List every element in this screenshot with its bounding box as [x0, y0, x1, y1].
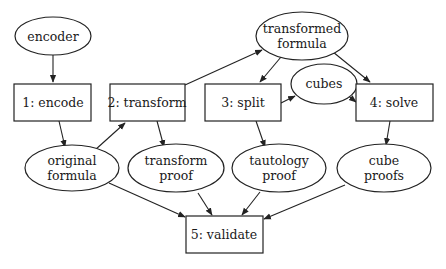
- edge-transform-proof-to-validate: [198, 193, 212, 215]
- edge-split-to-cubes: [281, 96, 295, 103]
- edge-solve-to-cube-proofs: [386, 121, 390, 145]
- edge-split-to-tautology-proof: [256, 121, 265, 147]
- node-validate[interactable]: 5: validate: [186, 216, 263, 253]
- edge-encode-to-original-formula: [59, 121, 65, 147]
- edge-transformed-formula-to-split: [260, 57, 281, 82]
- edge-transform-to-transformed-formula: [185, 50, 262, 85]
- node-label-line-1: transform: [145, 153, 208, 168]
- node-label-line-2: proof: [159, 168, 194, 183]
- node-label-line-1: tautology: [249, 153, 310, 168]
- node-label-line-1: original: [48, 153, 97, 168]
- node-solve[interactable]: 4: solve: [356, 84, 433, 121]
- node-tautology-proof[interactable]: tautology proof: [232, 144, 326, 192]
- node-label: 2: transform: [107, 95, 186, 110]
- node-cube-proofs[interactable]: cube proofs: [337, 144, 431, 192]
- node-cubes[interactable]: cubes: [291, 64, 357, 104]
- node-split[interactable]: 3: split: [205, 84, 281, 121]
- node-label-line-1: transformed: [263, 21, 341, 36]
- node-transform[interactable]: 2: transform: [107, 84, 186, 121]
- node-label: 4: solve: [370, 95, 419, 110]
- node-label: cubes: [306, 76, 343, 91]
- node-label: 5: validate: [191, 227, 258, 242]
- node-label-line-2: proofs: [364, 168, 404, 183]
- node-transformed-formula[interactable]: transformed formula: [256, 12, 348, 60]
- edge-original-formula-to-transform: [95, 123, 125, 150]
- node-encoder[interactable]: encoder: [15, 17, 91, 55]
- node-label: encoder: [27, 29, 78, 44]
- edge-transform-to-transform-proof: [157, 121, 164, 147]
- node-transform-proof[interactable]: transform proof: [128, 144, 224, 192]
- node-label-line-2: formula: [277, 36, 327, 51]
- node-encode[interactable]: 1: encode: [14, 84, 91, 121]
- pipeline-diagram: encoder 1: encode 2: transform transform…: [0, 0, 446, 269]
- node-label-line-2: formula: [47, 168, 97, 183]
- node-label: 3: split: [221, 95, 265, 110]
- node-original-formula[interactable]: original formula: [25, 145, 119, 191]
- node-label-line-2: proof: [262, 168, 297, 183]
- edge-tautology-proof-to-validate: [242, 192, 260, 215]
- node-label-line-1: cube: [369, 153, 399, 168]
- node-label: 1: encode: [22, 95, 84, 110]
